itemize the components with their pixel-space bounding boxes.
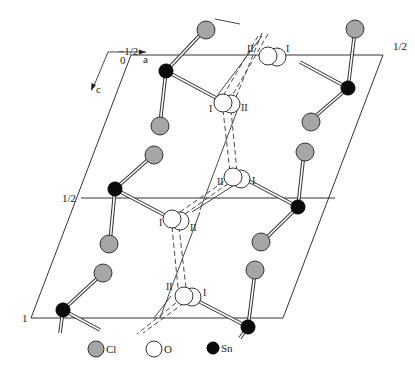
site-label-ii: II xyxy=(247,43,254,54)
legend-chlorine-icon xyxy=(88,341,104,357)
crystal-structure-diagram: a c −1/2 0 1/2 1/2 1 xyxy=(0,0,415,380)
chlorine-atom xyxy=(246,261,264,279)
tin-atom xyxy=(291,200,305,214)
cell-label-left-middle: 1/2 xyxy=(62,192,76,204)
tin-atom xyxy=(241,320,255,334)
chlorine-atom xyxy=(94,264,112,282)
chlorine-atom xyxy=(252,233,270,251)
cell-label-left-bottom: 1 xyxy=(22,312,28,324)
chlorine-atom xyxy=(145,146,163,164)
site-label-i: I xyxy=(286,43,289,54)
site-label-i: I xyxy=(159,217,162,228)
chlorine-atom xyxy=(296,143,314,161)
site-label-i: I xyxy=(252,175,255,186)
legend-tin-label: Sn xyxy=(221,342,233,354)
tin-atom xyxy=(159,64,173,78)
oxygen-atom-ii xyxy=(224,168,242,186)
chlorine-atom xyxy=(100,235,118,253)
oxygen-atom-i xyxy=(214,94,232,112)
tin-atom xyxy=(56,303,70,317)
site-labels: II I I II II I I II II I xyxy=(159,43,289,298)
tin-atom xyxy=(108,182,122,196)
cell-label-origin-bottom: 0 xyxy=(120,54,126,66)
atoms xyxy=(56,20,364,334)
site-label-ii: II xyxy=(241,102,248,113)
legend: Cl O Sn xyxy=(88,341,233,357)
chlorine-atom xyxy=(302,113,320,131)
c-axis-label: c xyxy=(96,83,101,95)
oxygen-atom-i xyxy=(163,210,181,228)
chlorine-atom xyxy=(197,21,215,39)
legend-oxygen-label: O xyxy=(164,343,172,355)
legend-tin-icon xyxy=(207,342,219,354)
site-label-i: I xyxy=(209,103,212,114)
legend-chlorine-label: Cl xyxy=(106,343,116,355)
chlorine-atom xyxy=(151,117,169,135)
site-label-i: I xyxy=(203,287,206,298)
legend-oxygen-icon xyxy=(146,341,162,357)
tin-atom xyxy=(341,81,355,95)
chlorine-atom xyxy=(346,20,364,38)
oxygen-atom-ii xyxy=(259,47,277,65)
site-label-ii: II xyxy=(217,176,224,187)
site-label-ii: II xyxy=(190,222,197,233)
bonds xyxy=(60,30,355,338)
oxygen-atom-ii xyxy=(175,287,193,305)
site-label-ii: II xyxy=(166,281,173,292)
cell-label-top-right: 1/2 xyxy=(393,40,407,52)
